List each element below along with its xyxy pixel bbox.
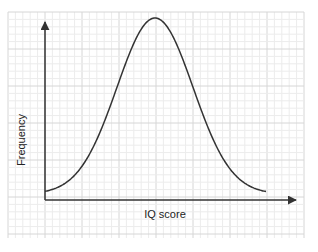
x-axis-label: IQ score (135, 208, 195, 220)
y-axis-label: Frequency (14, 110, 28, 170)
grid (8, 12, 304, 238)
